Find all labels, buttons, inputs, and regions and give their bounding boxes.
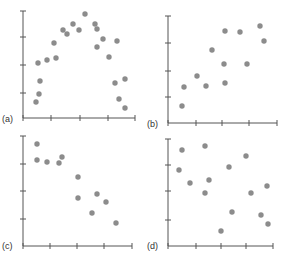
data-point [33, 99, 38, 104]
data-point [34, 141, 39, 146]
data-point [176, 167, 181, 172]
data-point [113, 220, 118, 225]
data-point [258, 212, 263, 217]
data-point [187, 180, 192, 185]
data-point [89, 210, 94, 215]
data-point [257, 23, 262, 28]
data-point [76, 27, 81, 32]
data-point [179, 147, 184, 152]
panel-a [20, 11, 135, 121]
data-point [82, 11, 87, 16]
data-point [226, 164, 231, 169]
data-point [106, 54, 111, 59]
panel-c-label: (c) [2, 241, 13, 251]
data-point [202, 143, 207, 148]
data-point [122, 76, 127, 81]
data-point [64, 31, 69, 36]
data-point [103, 199, 108, 204]
data-point [75, 195, 80, 200]
data-point [264, 183, 269, 188]
data-point [114, 38, 119, 43]
data-point [194, 73, 199, 78]
data-point [248, 190, 253, 195]
data-point [179, 103, 184, 108]
data-point [37, 78, 42, 83]
data-point [94, 44, 99, 49]
data-point [92, 21, 97, 26]
data-point [181, 84, 186, 89]
data-point [222, 28, 227, 33]
data-point [100, 36, 105, 41]
data-point [202, 190, 207, 195]
data-point [209, 47, 214, 52]
data-point [56, 160, 61, 165]
panel-d [165, 139, 273, 249]
data-point [203, 83, 208, 88]
data-point [94, 26, 99, 31]
panel-a-label: (a) [2, 114, 13, 124]
data-point [35, 60, 40, 65]
data-point [44, 159, 49, 164]
data-point [59, 154, 64, 159]
data-point [51, 40, 56, 45]
data-point [229, 209, 234, 214]
data-point [218, 228, 223, 233]
panel-c [20, 136, 132, 249]
data-point [237, 29, 242, 34]
data-point [70, 21, 75, 26]
data-point [60, 27, 65, 32]
data-point [36, 91, 41, 96]
data-point [44, 57, 49, 62]
data-point [206, 177, 211, 182]
panel-b-label: (b) [147, 119, 158, 129]
data-point [122, 105, 127, 110]
scatter-plots-figure: (a) (b) (c) (d) [0, 0, 289, 259]
panel-b [165, 16, 277, 126]
data-point [265, 221, 270, 226]
data-point [261, 38, 266, 43]
data-point [244, 61, 249, 66]
data-point [94, 191, 99, 196]
data-point [222, 80, 227, 85]
panel-d-label: (d) [147, 241, 158, 251]
data-point [34, 157, 39, 162]
data-point [53, 55, 58, 60]
data-point [112, 80, 117, 85]
data-point [116, 96, 121, 101]
data-point [243, 153, 248, 158]
data-point [221, 61, 226, 66]
data-point [75, 174, 80, 179]
